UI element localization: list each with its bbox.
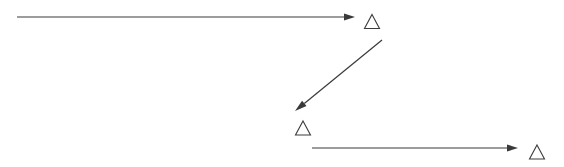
arrows-layer: [17, 14, 518, 152]
top-horizontal-arrow: [17, 14, 355, 21]
bottom-horizontal-arrow-head: [507, 145, 518, 152]
diagram-svg: [0, 0, 564, 167]
diagonal-down-left-arrow-shaft: [304, 40, 382, 103]
triangle-marker-middle: [296, 121, 311, 135]
diagonal-down-left-arrow: [295, 40, 382, 111]
triangle-marker-bottom: [530, 145, 545, 159]
bottom-horizontal-arrow: [312, 145, 518, 152]
triangle-marker-top: [365, 15, 380, 29]
top-horizontal-arrow-head: [344, 14, 355, 21]
diagram-canvas: [0, 0, 564, 167]
triangles-layer: [296, 15, 545, 160]
